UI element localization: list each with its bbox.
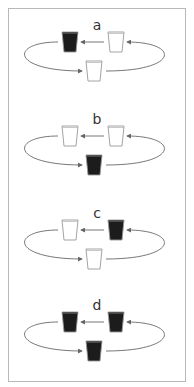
left-empty-cup-icon bbox=[62, 126, 78, 146]
right-full-cup-icon bbox=[108, 312, 124, 332]
right-empty-cup-icon bbox=[108, 126, 124, 146]
bottom-empty-cup-icon bbox=[86, 249, 102, 269]
cup-cycle-diagram bbox=[0, 0, 194, 387]
left-full-cup-icon bbox=[62, 32, 78, 52]
bottom-empty-cup-icon bbox=[86, 61, 102, 81]
right-empty-cup-icon bbox=[108, 32, 124, 52]
left-full-cup-icon bbox=[62, 312, 78, 332]
bottom-full-cup-icon bbox=[86, 155, 102, 175]
right-full-cup-icon bbox=[108, 220, 124, 240]
bottom-full-cup-icon bbox=[86, 341, 102, 361]
left-empty-cup-icon bbox=[62, 220, 78, 240]
